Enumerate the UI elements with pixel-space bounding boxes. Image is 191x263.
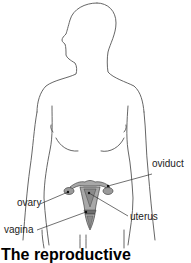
ovary-right [103,188,113,195]
label-oviduct: oviduct [152,159,184,169]
reproductive-organs [64,181,113,231]
figure-caption: The reproductive [1,247,131,263]
label-vagina: vagina [4,225,33,235]
label-ovary: ovary [17,198,41,208]
label-uterus: uterus [130,212,158,222]
